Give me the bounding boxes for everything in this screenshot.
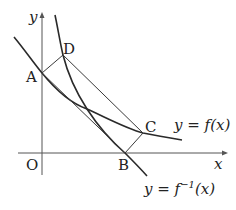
function-inverse-diagram: y x O A D C B y = f(x) y = f−1(x): [0, 0, 236, 210]
curve-f-inverse-label: y = f−1(x): [143, 179, 215, 198]
y-axis-arrow-icon: [40, 12, 45, 18]
point-a-label: A: [25, 68, 37, 86]
point-d-label: D: [63, 40, 75, 58]
y-axis-label: y: [28, 8, 38, 26]
curve-f-inverse-suffix: (x): [195, 180, 215, 198]
segment-ad: [42, 55, 63, 73]
curve-f-inverse-prefix: y = f: [143, 180, 183, 198]
curve-f-inverse-sup: −1: [180, 179, 195, 190]
curve-f-label: y = f(x): [173, 116, 230, 134]
segment-cb: [125, 133, 143, 153]
svg-text:y = f−1(x): y = f−1(x): [143, 179, 215, 198]
x-axis-arrow-icon: [222, 151, 228, 156]
segment-dc: [63, 55, 143, 133]
segment-ab: [42, 73, 125, 153]
point-b-label: B: [118, 156, 129, 174]
origin-label: O: [26, 156, 38, 174]
x-axis-label: x: [214, 155, 223, 173]
quadrilateral-abcd: [42, 55, 143, 153]
point-c-label: C: [145, 118, 156, 136]
